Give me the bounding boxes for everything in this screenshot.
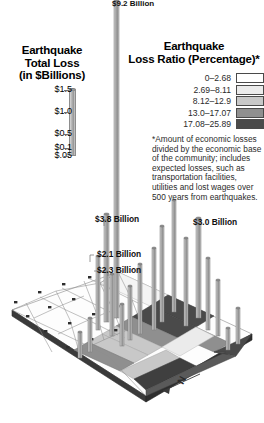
loss-ratio-legend: Earthquake Loss Ratio (Percentage)* 0–2.… [124, 40, 264, 202]
legend-range-label-1: 2.69–8.11 [193, 85, 231, 95]
legend-row-0: 0–2.68 [124, 73, 264, 83]
callout-label-0: $9.2 Billion [112, 0, 154, 8]
loss-bar-14 [120, 303, 124, 346]
scale-title-line1: Earthquake [4, 44, 100, 57]
scale-title-line2: Total Loss [4, 57, 100, 70]
loss-bar-12 [128, 285, 132, 340]
loss-bar-17 [78, 331, 82, 358]
legend-row-3: 13.0–17.07 [124, 108, 264, 118]
loss-bar-0 [172, 199, 176, 312]
ratio-title-line1: Earthquake [124, 40, 264, 53]
legend-swatch-3 [236, 108, 264, 118]
callout-label-2: $2.1 Billion [97, 250, 141, 259]
scale-title-line3: (in $Billions) [4, 69, 100, 82]
total-loss-scale-legend: Earthquake Total Loss (in $Billions) $1.… [4, 44, 100, 160]
legend-row-1: 2.69–8.11 [124, 85, 264, 95]
loss-bar-7 [152, 247, 156, 330]
loss-bar-11 [216, 279, 220, 336]
loss-bar-10 [110, 273, 114, 336]
loss-bar-8 [206, 257, 210, 330]
legend-swatch-2 [236, 96, 264, 106]
loss-bar-15 [226, 327, 230, 350]
legend-row-4: 17.08–25.89 [124, 119, 264, 129]
loss-bar-4 [160, 225, 164, 322]
ratio-legend-title: Earthquake Loss Ratio (Percentage)* [124, 40, 264, 66]
ratio-legend-rows: 0–2.682.69–8.118.12–12.913.0–17.0717.08–… [124, 73, 264, 129]
legend-range-label-2: 8.12–12.9 [193, 96, 231, 106]
ratio-title-line2: Loss Ratio (Percentage)* [124, 53, 264, 66]
scale-tick-mark-3 [64, 148, 69, 149]
scale-legend-body: $1.5$1.0$0.5$0.1$.05 [4, 88, 100, 160]
legend-swatch-4 [236, 119, 264, 129]
scale-legend-title: Earthquake Total Loss (in $Billions) [4, 44, 100, 82]
loss-bar-2 [196, 217, 201, 318]
loss-bar-16 [88, 317, 92, 352]
scale-tick-mark-1 [64, 112, 69, 113]
legend-swatch-1 [236, 85, 264, 95]
loss-bar-5 [184, 237, 188, 326]
callout-label-1: $3.8 Billion [95, 215, 139, 224]
scale-tick-mark-0 [64, 90, 69, 91]
callout-label-4: $3.0 Billion [193, 218, 237, 227]
legend-range-label-0: 0–2.68 [205, 73, 231, 83]
legend-range-label-3: 13.0–17.07 [188, 108, 231, 118]
scale-tick-mark-4 [64, 156, 69, 157]
scale-tick-mark-2 [64, 134, 69, 135]
legend-row-2: 8.12–12.9 [124, 96, 264, 106]
callout-label-3: $2.3 Billion [97, 266, 141, 275]
loss-bar-13 [236, 307, 240, 344]
legend-range-label-4: 17.08–25.89 [183, 119, 231, 129]
legend-swatch-0 [236, 73, 264, 83]
ratio-legend-footnote: *Amount of economic losses divided by th… [124, 135, 264, 202]
